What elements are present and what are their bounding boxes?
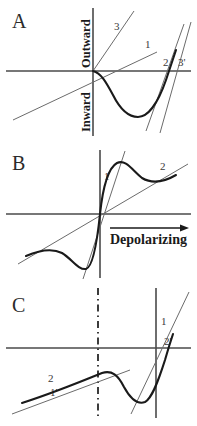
panel-b-label-2: 2 <box>160 160 166 172</box>
panel-a-label-1: 1 <box>145 38 151 50</box>
panel-b-letter: B <box>12 152 25 174</box>
panel-c-label-1: 1 <box>161 315 167 327</box>
panel-a-label-3-prime: 3' <box>178 56 186 68</box>
panel-c-letter: C <box>12 294 25 316</box>
panel-a-inward-label: Inward <box>79 92 93 132</box>
panel-b-depolarizing-label: Depolarizing <box>110 232 187 247</box>
figure-canvas: A Outward Inward 3 1 2 3' B 1 2 <box>0 0 197 426</box>
panel-a-label-3: 3 <box>114 20 120 32</box>
panel-a-label-2: 2 <box>163 56 169 68</box>
panel-a-letter: A <box>12 10 27 32</box>
panel-c-label-2: 2 <box>48 372 54 384</box>
panel-a-outward-label: Outward <box>79 19 93 68</box>
